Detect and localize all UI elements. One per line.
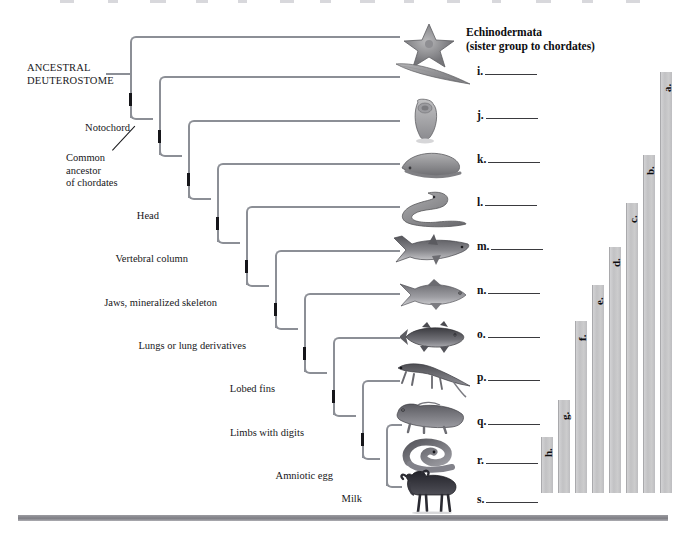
bar-label-c: c. <box>627 215 639 223</box>
bar-label-e: e. <box>593 297 605 305</box>
figure-canvas: ANCESTRAL DEUTEROSTOME Notochord Common … <box>0 0 684 533</box>
bar-chart: h.g.f.e.d.c.b.a. <box>0 0 684 533</box>
bar-f <box>575 321 587 493</box>
bar-h <box>541 437 553 493</box>
bar-label-f: f. <box>576 335 588 341</box>
bar-label-a: a. <box>661 84 673 92</box>
bar-d <box>609 247 621 493</box>
bar-e <box>592 285 604 493</box>
bar-label-g: g. <box>559 412 571 420</box>
bar-a <box>660 72 672 493</box>
bar-label-d: d. <box>610 258 622 267</box>
bottom-horizontal-rule <box>18 515 668 521</box>
bar-c <box>626 203 638 493</box>
bar-label-h: h. <box>542 448 554 457</box>
bar-b <box>643 155 655 493</box>
bar-label-b: b. <box>644 166 656 175</box>
